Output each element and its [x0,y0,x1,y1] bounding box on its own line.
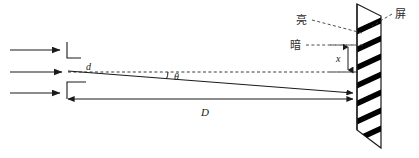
slit-brackets [67,42,86,99]
slit-separation-label: d [86,61,92,72]
double-slit-diagram: θ d D x [0,0,419,158]
angle-label: θ [174,71,179,82]
slit-bracket-upper [67,42,81,58]
observation-screen [356,4,382,148]
dark-fringe-label: 暗 [290,38,301,52]
slit-bracket-lower [67,82,86,99]
bright-fringe-label: 亮 [296,13,307,27]
incident-wave-arrows [10,50,62,93]
fringe-spacing-label: x [335,53,341,64]
screen-label: 屏 [395,8,406,21]
screen-distance-label: D [200,106,209,118]
angle-arc [167,72,168,79]
fringe-spacing-measure: x [330,45,357,72]
bright-fringe-leader [312,20,362,33]
ray-to-screen [68,71,353,93]
diagram-canvas: θ d D x [0,0,419,158]
